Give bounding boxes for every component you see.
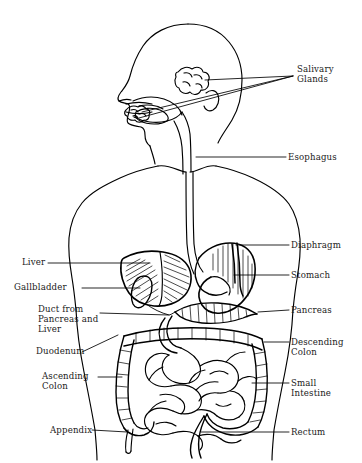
ear-outline [204,91,219,111]
label-appendix: Appendix [50,425,92,435]
label-esophagus: Esophagus [288,152,337,162]
head-outline [118,24,242,146]
label-pancreas: Pancreas [291,305,332,315]
label-stomach: Stomach [291,270,330,280]
label-rectum: Rectum [291,427,325,437]
transverse-colon [124,328,262,350]
leader-duct [100,313,168,315]
sigmoid-and-rectum [191,414,259,458]
leader-salivary-sublingual-b [139,76,293,118]
digestive-system-diagram: Salivary Glands Esophagus Diaphragm Stom… [0,0,362,463]
liver [121,251,191,307]
label-duodenum: Duodenum [36,346,85,356]
leader-appendix [92,430,127,432]
ascending-colon [116,336,154,436]
label-salivary-glands: Salivary Glands [297,64,334,84]
label-ascending-colon: Ascending Colon [42,371,89,391]
label-small-intestine: Small Intestine [291,378,331,398]
parotid-gland [175,67,209,94]
leader-pancreas [258,310,289,312]
diaphragm [232,243,243,296]
label-diaphragm: Diaphragm [291,240,341,250]
label-descending-colon: Descending Colon [291,337,344,357]
esophagus [186,172,203,274]
leader-duodenum [82,335,118,352]
label-gallbladder: Gallbladder [14,282,67,292]
neck-and-pharynx [150,112,191,174]
label-liver: Liver [22,257,45,267]
label-duct-from-pancreas-and-liver: Duct from Pancreas and Liver [38,304,98,335]
leader-salivary-sublingual-a [142,76,293,112]
